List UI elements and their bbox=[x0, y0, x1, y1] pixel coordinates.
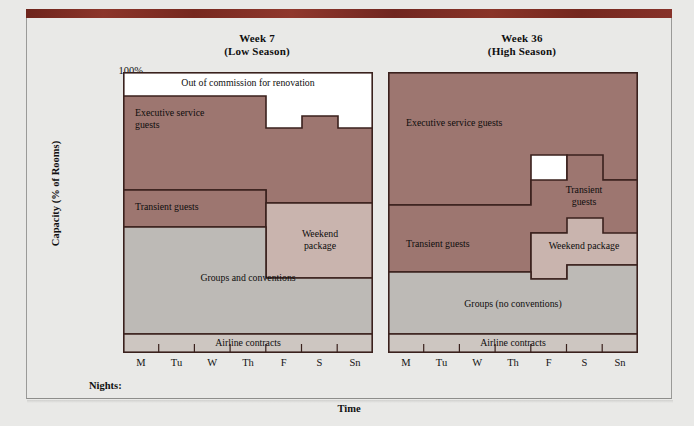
x-tick-f: F bbox=[281, 357, 287, 368]
x-tick-sn: Sn bbox=[349, 357, 360, 368]
chart-title-week-36: Week 36 (High Season) bbox=[442, 32, 602, 58]
chart-title-week-36-line1: Week 36 bbox=[442, 32, 602, 45]
x-tick-s: S bbox=[316, 357, 322, 368]
chart-title-week-36-line2: (High Season) bbox=[442, 45, 602, 58]
x-tick-s: S bbox=[581, 357, 587, 368]
figure-root: Capacity (% of Rooms) 100% 50 Nights: Ti… bbox=[0, 0, 694, 426]
x-tick-w: W bbox=[207, 357, 217, 368]
chart-title-week-7-line1: Week 7 bbox=[177, 32, 337, 45]
region-renovation bbox=[123, 72, 373, 96]
chart-panel: Capacity (% of Rooms) 100% 50 Nights: Ti… bbox=[26, 18, 672, 399]
region-airline-contracts bbox=[123, 334, 373, 353]
x-tick-th: Th bbox=[242, 357, 254, 368]
chart-week-7-plot bbox=[123, 72, 373, 353]
chart-title-week-7-line2: (Low Season) bbox=[177, 45, 337, 58]
chart-week-36-plot bbox=[388, 72, 638, 353]
y-axis-label: Capacity (% of Rooms) bbox=[50, 114, 61, 274]
nights-axis-label: Nights: bbox=[89, 380, 122, 391]
x-axis-tick-labels-week-36: M Tu W Th F S Sn bbox=[388, 357, 638, 373]
chart-week-36: Executive service guests Transient guest… bbox=[388, 72, 638, 353]
x-axis-label: Time bbox=[27, 403, 671, 414]
x-tick-sn: Sn bbox=[614, 357, 625, 368]
x-tick-f: F bbox=[546, 357, 552, 368]
x-tick-th: Th bbox=[507, 357, 519, 368]
decorative-top-band bbox=[26, 9, 672, 18]
region-groups-no-conventions bbox=[388, 265, 638, 334]
x-axis-tick-labels-week-7: M Tu W Th F S Sn bbox=[123, 357, 373, 373]
region-airline-contracts bbox=[388, 334, 638, 353]
x-tick-tu: Tu bbox=[171, 357, 182, 368]
x-tick-m: M bbox=[401, 357, 410, 368]
region-transient-guests bbox=[123, 190, 266, 227]
region-weekend-package bbox=[266, 203, 373, 278]
x-tick-m: M bbox=[136, 357, 145, 368]
chart-title-week-7: Week 7 (Low Season) bbox=[177, 32, 337, 58]
x-tick-tu: Tu bbox=[436, 357, 447, 368]
x-tick-w: W bbox=[472, 357, 482, 368]
chart-week-7: Out of commission for renovation Executi… bbox=[123, 72, 373, 353]
